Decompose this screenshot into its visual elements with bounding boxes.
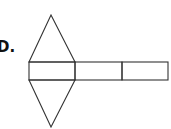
rect-face-2 <box>75 62 122 80</box>
prism-net-diagram <box>0 0 171 129</box>
rect-face-1 <box>29 62 75 80</box>
rect-face-3 <box>122 62 168 80</box>
top-triangle-face <box>29 15 75 62</box>
bottom-triangle-face <box>29 80 75 127</box>
